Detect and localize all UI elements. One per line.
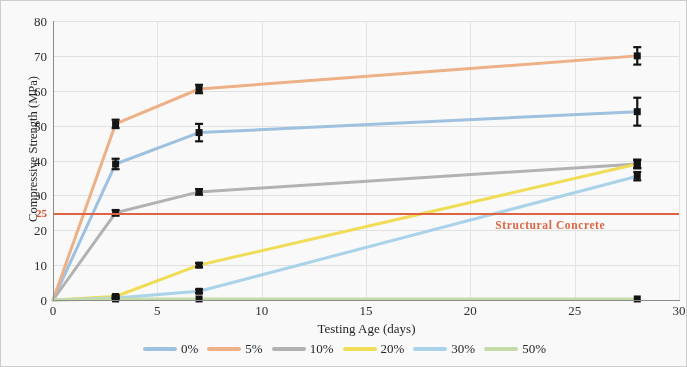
data-point-marker [196,262,203,269]
legend-label: 30% [451,341,475,357]
legend-label: 0% [181,341,198,357]
series-line-20pct [53,164,637,300]
x-axis-title: Testing Age (days) [53,321,680,337]
y-tick-label: 40 [1,154,47,167]
data-point-marker [196,295,203,302]
legend-swatch [272,347,306,351]
threshold-line [53,213,679,215]
threshold-label: Structural Concrete [495,219,605,231]
data-point-marker [196,86,203,93]
y-tick-label: 30 [1,189,47,202]
legend-swatch [413,347,447,351]
data-point-marker [196,288,203,295]
x-tick-label: 0 [50,304,57,317]
y-tick-label: 10 [1,259,47,272]
data-point-marker [112,295,119,302]
y-tick-label: 80 [1,15,47,28]
x-tick-label: 20 [464,304,477,317]
legend-item-5pct[interactable]: 5% [207,341,262,357]
data-point-marker [112,120,119,127]
legend-label: 10% [310,341,334,357]
x-tick-label: 30 [673,304,686,317]
legend-swatch [343,347,377,351]
series-line-30pct [53,176,637,300]
legend-item-0pct[interactable]: 0% [143,341,198,357]
x-tick-label: 10 [255,304,268,317]
y-tick-label-threshold: 25 [1,207,47,218]
chart-legend: 0%5%10%20%30%50% [1,341,687,357]
data-point-marker [196,188,203,195]
data-point-marker [634,173,641,180]
data-point-marker [634,52,641,59]
legend-label: 5% [245,341,262,357]
y-tick-label: 20 [1,224,47,237]
data-point-marker [634,108,641,115]
y-tick-label: 50 [1,119,47,132]
legend-swatch [207,347,241,351]
x-tick-label: 15 [360,304,373,317]
y-tick-label: 60 [1,84,47,97]
data-point-marker [196,129,203,136]
legend-item-20pct[interactable]: 20% [343,341,405,357]
data-point-marker [634,160,641,167]
y-axis-line [53,21,54,301]
chart-figure: Compressive Strength (MPa) Structural Co… [0,0,687,367]
legend-label: 20% [381,341,405,357]
series-lines [53,21,679,300]
x-axis-line [53,300,680,301]
x-tick-label: 25 [568,304,581,317]
legend-item-30pct[interactable]: 30% [413,341,475,357]
legend-item-10pct[interactable]: 10% [272,341,334,357]
legend-swatch [143,347,177,351]
legend-item-50pct[interactable]: 50% [484,341,546,357]
data-point-marker [634,295,641,302]
x-tick-label: 5 [154,304,161,317]
legend-label: 50% [522,341,546,357]
legend-swatch [484,347,518,351]
y-tick-label: 70 [1,49,47,62]
plot-area: Structural Concrete [53,21,679,300]
data-point-marker [112,160,119,167]
series-line-5pct [53,56,637,300]
gridline-vertical [679,21,680,300]
y-tick-label: 0 [1,294,47,307]
